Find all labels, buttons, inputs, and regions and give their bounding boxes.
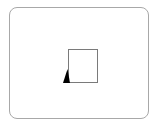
triangle-marker-icon [63, 69, 70, 83]
inner-square [68, 49, 98, 83]
